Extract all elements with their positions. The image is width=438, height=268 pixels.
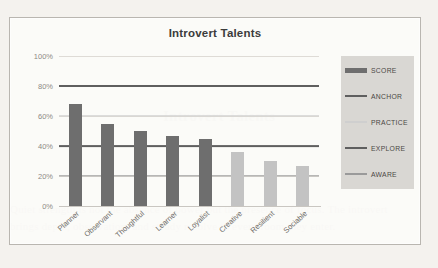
bar-slot: Observant (92, 56, 125, 206)
plot-area: 0%20%40%60%80%100% PlannerObservantThoug… (59, 56, 319, 206)
y-axis-tick-label: 80% (38, 82, 53, 91)
legend-swatch-explore (345, 147, 367, 149)
category-axis-line (59, 206, 321, 207)
legend-label: SCORE (371, 67, 397, 74)
x-axis-label-planner: Planner (56, 209, 81, 233)
y-axis-tick-label: 0% (42, 202, 53, 211)
bar-slot: Learner (157, 56, 190, 206)
legend-label: AWARE (371, 171, 397, 178)
y-axis-tick-label: 100% (34, 52, 53, 61)
y-axis-tick-label: 20% (38, 172, 53, 181)
bar-slot: Creative (222, 56, 255, 206)
legend-item-aware[interactable]: AWARE (345, 169, 411, 179)
bar-observant[interactable] (101, 124, 114, 207)
x-axis-label-learner: Learner (154, 209, 179, 233)
legend-label: ANCHOR (371, 93, 402, 100)
bar-resilient[interactable] (264, 161, 277, 206)
legend-item-explore[interactable]: EXPLORE (345, 143, 411, 153)
y-axis-tick-label: 40% (38, 142, 53, 151)
x-axis-label-creative: Creative (217, 209, 244, 234)
x-axis-label-thoughtful: Thoughtful (114, 209, 146, 239)
legend-label: EXPLORE (371, 145, 405, 152)
bar-slot: Loyalist (189, 56, 222, 206)
bar-slot: Sociable (287, 56, 320, 206)
legend-item-anchor[interactable]: ANCHOR (345, 91, 411, 101)
bar-slot: Thoughtful (124, 56, 157, 206)
legend-swatch-aware (345, 173, 367, 175)
bar-series: PlannerObservantThoughtfulLearnerLoyalis… (59, 56, 319, 206)
bar-slot: Planner (59, 56, 92, 206)
bar-thoughtful[interactable] (134, 131, 147, 206)
legend-swatch-anchor (345, 95, 367, 97)
y-axis-tick-label: 60% (38, 112, 53, 121)
bar-loyalist[interactable] (199, 139, 212, 207)
chart-legend: SCOREANCHORPRACTICEEXPLOREAWARE (341, 56, 414, 189)
chart-title: Introvert Talents (10, 27, 420, 39)
bar-planner[interactable] (69, 104, 82, 206)
bar-creative[interactable] (231, 152, 244, 206)
legend-label: PRACTICE (371, 119, 408, 126)
x-axis-label-observant: Observant (82, 209, 114, 239)
legend-item-score[interactable]: SCORE (345, 65, 411, 75)
x-axis-label-loyalist: Loyalist (186, 209, 211, 233)
x-axis-label-resilient: Resilient (249, 209, 276, 235)
legend-swatch-score (345, 68, 367, 73)
legend-swatch-practice (345, 121, 367, 123)
bar-sociable[interactable] (296, 166, 309, 207)
chart-frame: Introvert Talents 0%20%40%60%80%100% Pla… (9, 17, 421, 245)
bar-slot: Resilient (254, 56, 287, 206)
bar-learner[interactable] (166, 136, 179, 207)
x-axis-label-sociable: Sociable (281, 209, 308, 235)
legend-item-practice[interactable]: PRACTICE (345, 117, 411, 127)
